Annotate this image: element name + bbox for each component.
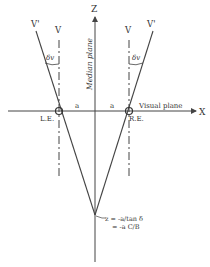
- right-angle-arc: [129, 63, 143, 65]
- right-angle-label: δv: [132, 54, 140, 62]
- visual-plane-label: Visual plane: [138, 102, 182, 110]
- left-angle-label: δv: [46, 54, 54, 62]
- left-eye-label: L.E.: [40, 115, 54, 123]
- left-distance-label: a: [75, 102, 79, 110]
- left-v-label: V: [54, 25, 62, 35]
- x-axis-label: X: [199, 107, 206, 117]
- right-distance-label: a: [110, 102, 114, 110]
- z-axis-label: Z: [91, 4, 97, 14]
- left-v-prime-label: V': [30, 19, 39, 29]
- right-v-label: V: [124, 25, 132, 35]
- median-plane-label: Median plane: [85, 37, 94, 91]
- right-v-prime-label: V': [146, 19, 155, 29]
- right-v-prime-line: [95, 31, 153, 215]
- equation-line-1: z = -a/tan δ: [105, 215, 143, 223]
- equation-line-2: = -a C/B: [112, 223, 140, 231]
- right-eye-label: R.E.: [129, 115, 144, 123]
- binocular-diagram: Z X Median plane Visual plane V' V V V' …: [0, 0, 210, 267]
